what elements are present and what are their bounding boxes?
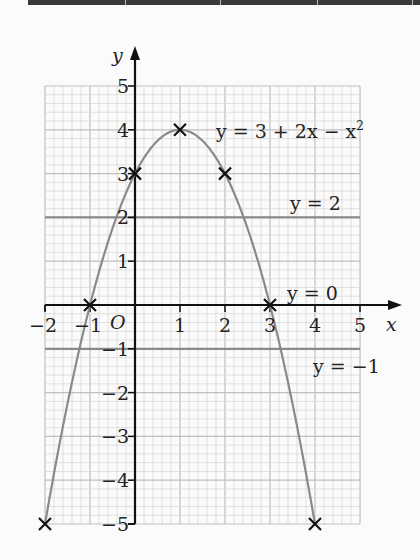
axes xyxy=(45,46,402,524)
x-tick-label: 1 xyxy=(174,314,186,336)
x-tick-label: −1 xyxy=(74,314,102,336)
y-tick-label: −2 xyxy=(101,382,129,404)
line-ym1-label: y = −1 xyxy=(312,355,380,377)
y-tick-label: 4 xyxy=(117,119,129,141)
x-tick-label: 4 xyxy=(309,314,321,336)
x-axis-label: x xyxy=(386,313,397,335)
y-tick-label: 2 xyxy=(117,206,129,228)
curve-equation-text: y = 3 + 2x − x xyxy=(215,120,357,142)
x-axis-arrow-icon xyxy=(388,300,402,310)
y-tick-label: −1 xyxy=(101,338,129,360)
y-tick-label: 3 xyxy=(117,163,129,185)
curve-equation-label: y = 3 + 2x − x2 xyxy=(215,119,364,142)
y-tick-label: −4 xyxy=(101,469,129,491)
y-axis-arrow-icon xyxy=(130,46,140,60)
x-tick-label: 3 xyxy=(264,314,276,336)
x-tick-label: 2 xyxy=(219,314,231,336)
quadratic-graph: −2−11234554321−1−2−3−4−5 y x O y = 3 + 2… xyxy=(0,0,420,560)
origin-label: O xyxy=(110,311,126,333)
y-tick-label: 1 xyxy=(117,250,129,272)
x-tick-label: −2 xyxy=(29,314,57,336)
y-axis-label: y xyxy=(111,44,123,66)
curve-equation-superscript: 2 xyxy=(356,119,364,133)
y-tick-label: −3 xyxy=(101,425,129,447)
line-y0-label: y = 0 xyxy=(286,282,338,304)
x-tick-label: 5 xyxy=(354,314,366,336)
line-y2-label: y = 2 xyxy=(289,192,341,214)
y-tick-label: −5 xyxy=(101,513,129,535)
y-tick-label: 5 xyxy=(117,75,129,97)
